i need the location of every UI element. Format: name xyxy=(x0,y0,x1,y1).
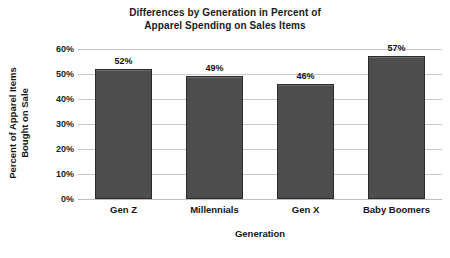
x-axis-tick-label: Gen X xyxy=(260,204,351,216)
y-axis-tick-label: 50% xyxy=(40,70,74,79)
bar-value-label: 57% xyxy=(387,43,405,53)
bar-value-label: 49% xyxy=(205,63,223,73)
bar-value-label: 46% xyxy=(296,71,314,81)
y-axis-tick-label: 40% xyxy=(40,95,74,104)
x-axis-line xyxy=(78,199,442,200)
bars-layer: 52%49%46%57% xyxy=(78,49,442,199)
x-axis-tick-labels: Gen ZMillennialsGen XBaby Boomers xyxy=(78,204,442,220)
bar xyxy=(368,56,425,199)
bar-value-label: 52% xyxy=(114,56,132,66)
y-axis-tick-label: 30% xyxy=(40,120,74,129)
bar xyxy=(277,84,334,199)
x-axis-title: Generation xyxy=(78,228,442,239)
x-axis-tick-label: Gen Z xyxy=(78,204,169,216)
chart-title-line-2: Apparel Spending on Sales Items xyxy=(0,19,450,32)
chart-title-line-1: Differences by Generation in Percent of xyxy=(0,6,450,19)
bar-group: 46% xyxy=(277,49,334,199)
y-axis-title-line-2: Bought on Sale xyxy=(19,67,31,179)
y-axis-title-line-1: Percent of Apparel Items xyxy=(7,67,19,179)
bar-group: 49% xyxy=(186,49,243,199)
x-axis-tick-label: Baby Boomers xyxy=(351,204,442,216)
bar xyxy=(186,76,243,199)
y-axis-title: Percent of Apparel Items Bought on Sale xyxy=(4,44,34,202)
y-axis-tick-label: 20% xyxy=(40,145,74,154)
bar-group: 52% xyxy=(95,49,152,199)
chart-title: Differences by Generation in Percent of … xyxy=(0,6,450,32)
y-axis-tick-label: 60% xyxy=(40,45,74,54)
x-axis-tick-label: Millennials xyxy=(169,204,260,216)
y-axis-tick-labels: 0%10%20%30%40%50%60% xyxy=(36,49,74,199)
y-axis-tick-label: 10% xyxy=(40,170,74,179)
y-axis-tick-label: 0% xyxy=(40,195,74,204)
bar-group: 57% xyxy=(368,49,425,199)
bar xyxy=(95,69,152,199)
bar-chart: Differences by Generation in Percent of … xyxy=(0,0,450,258)
